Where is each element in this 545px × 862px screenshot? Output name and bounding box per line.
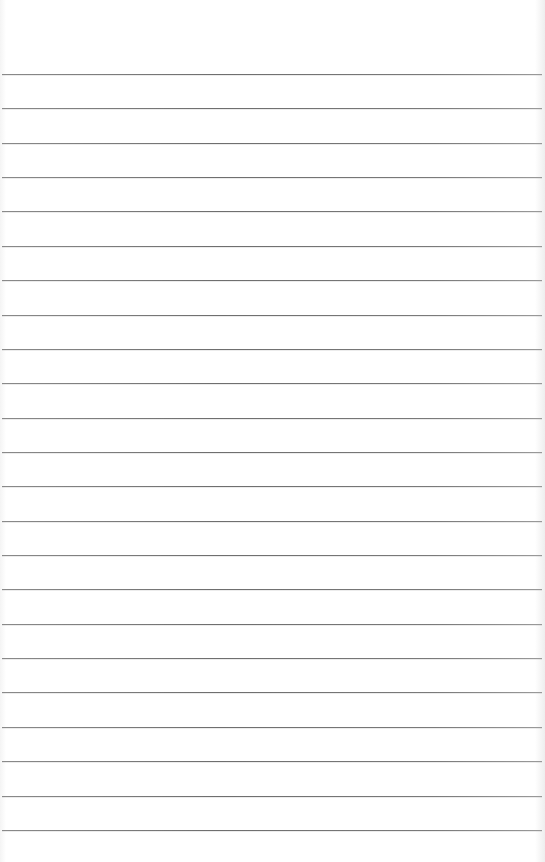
ruled-line [2, 280, 542, 281]
ruled-line [2, 589, 542, 590]
ruled-line [2, 658, 542, 659]
ruled-line [2, 830, 542, 831]
ruled-line [2, 555, 542, 556]
ruled-line [2, 692, 542, 693]
lined-paper [0, 0, 545, 862]
ruled-line [2, 349, 542, 350]
ruled-line [2, 486, 542, 487]
ruled-line [2, 761, 542, 762]
ruled-line [2, 315, 542, 316]
ruled-line [2, 177, 542, 178]
ruled-line [2, 74, 542, 75]
ruled-line [2, 796, 542, 797]
ruled-line [2, 727, 542, 728]
ruled-line [2, 108, 542, 109]
ruled-line [2, 383, 542, 384]
ruled-line [2, 418, 542, 419]
ruled-line [2, 624, 542, 625]
ruled-line [2, 143, 542, 144]
ruled-line [2, 211, 542, 212]
ruled-line [2, 452, 542, 453]
ruled-line [2, 246, 542, 247]
ruled-line [2, 521, 542, 522]
